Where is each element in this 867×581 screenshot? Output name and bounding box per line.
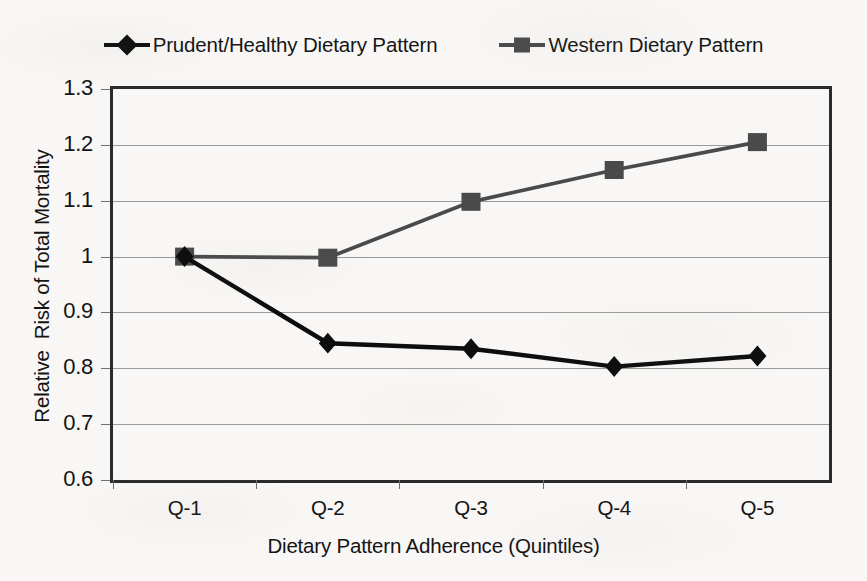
legend-marker-square-icon <box>499 34 545 56</box>
legend-item-western: Western Dietary Pattern <box>499 33 763 57</box>
x-axis-tick-label: Q-2 <box>268 496 388 520</box>
x-axis-tick-label: Q-4 <box>554 496 674 520</box>
x-axis-tick-mark <box>256 480 257 489</box>
x-axis-tick-layer: Q-1Q-2Q-3Q-4Q-5 <box>0 0 867 581</box>
x-axis-tick-label: Q-1 <box>125 496 245 520</box>
x-axis-tick-label: Q-3 <box>411 496 531 520</box>
y-axis-title: Relative Risk of Total Mortality <box>30 116 54 456</box>
x-axis-tick-mark <box>113 480 114 489</box>
x-axis-tick-label: Q-5 <box>697 496 817 520</box>
legend-item-prudent: Prudent/Healthy Dietary Pattern <box>104 33 438 57</box>
x-axis-tick-mark <box>543 480 544 489</box>
chart-legend: Prudent/Healthy Dietary Pattern Western … <box>0 28 867 62</box>
x-axis-tick-mark <box>686 480 687 489</box>
x-axis-title: Dietary Pattern Adherence (Quintiles) <box>0 534 867 558</box>
diamond-marker-icon <box>116 34 137 55</box>
square-marker-icon <box>514 38 530 53</box>
x-axis-tick-mark <box>399 480 400 489</box>
legend-label-western: Western Dietary Pattern <box>548 33 763 57</box>
legend-label-prudent: Prudent/Healthy Dietary Pattern <box>153 33 438 57</box>
chart-figure: Prudent/Healthy Dietary Pattern Western … <box>0 0 867 581</box>
legend-marker-diamond-icon <box>104 34 150 56</box>
